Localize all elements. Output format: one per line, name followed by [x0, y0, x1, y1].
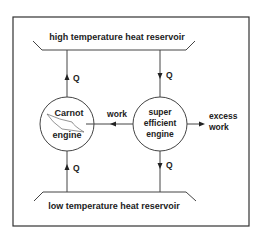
low-reservoir-line	[34, 192, 196, 201]
excess-work-label-1: excess	[209, 111, 238, 121]
super-bottom-arrow-down-icon	[158, 163, 163, 169]
work-arrow-left-icon	[110, 122, 116, 127]
excess-work-arrow-right-icon	[199, 122, 205, 127]
super-engine-label-3: engine	[146, 129, 174, 139]
super-top-q-label: Q	[166, 70, 173, 80]
carnot-engine-label-1: Carnot	[55, 108, 84, 118]
super-bottom-q-label: Q	[166, 160, 173, 170]
super-engine-label-2: efficient	[144, 118, 177, 128]
high-reservoir-line	[33, 41, 195, 50]
carnot-engine: Carnot engine	[40, 97, 94, 151]
work-label: work	[106, 109, 127, 119]
carnot-engine-label-2: engine	[52, 130, 81, 140]
carnot-top-q-label: Q	[73, 73, 80, 83]
high-reservoir-label: high temperature heat reservoir	[49, 32, 185, 42]
perpetual-motion-diagram: high temperature heat reservoir low temp…	[0, 0, 262, 240]
carnot-bottom-q-label: Q	[73, 163, 80, 173]
excess-work-label-2: work	[208, 122, 229, 132]
super-efficient-engine: super efficient engine	[133, 97, 187, 151]
carnot-top-arrow-up-icon	[65, 74, 70, 80]
carnot-bottom-arrow-up-icon	[65, 164, 70, 170]
super-top-arrow-down-icon	[158, 73, 163, 79]
super-engine-label-1: super	[148, 107, 172, 117]
low-reservoir-label: low temperature heat reservoir	[48, 201, 180, 211]
